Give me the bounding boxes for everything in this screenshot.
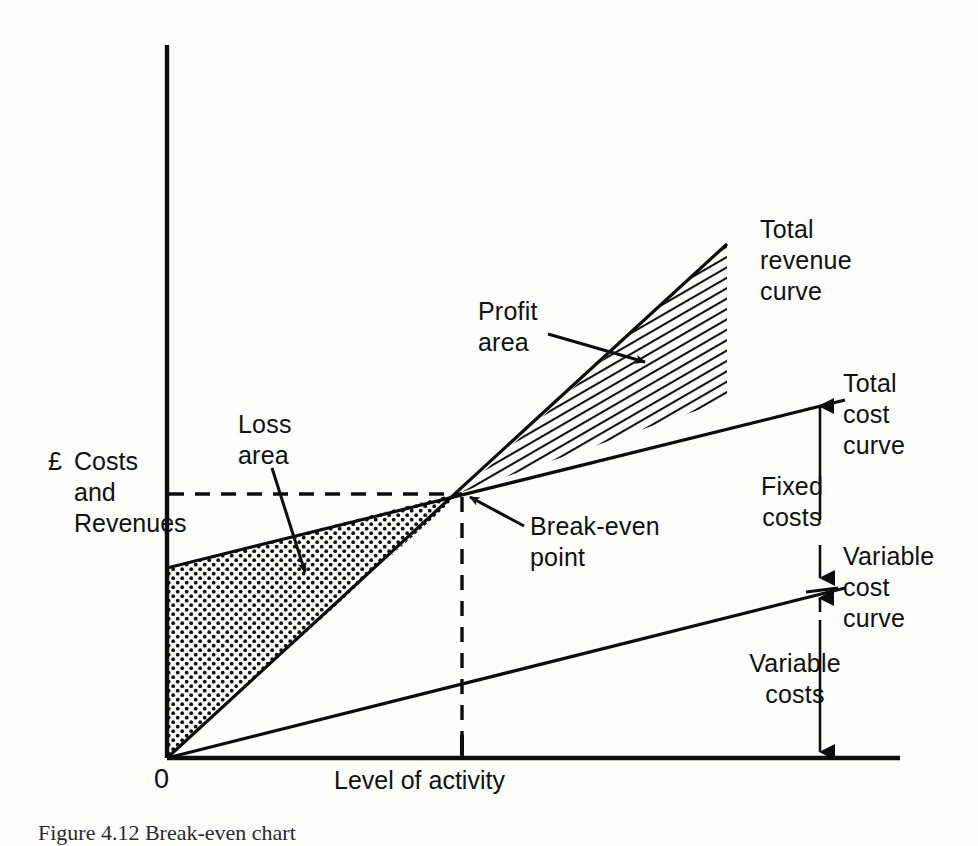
break-even-chart-svg: £ Costs and Revenues 0 Level of activity…	[0, 0, 978, 846]
profit-area-label-line-2: area	[478, 328, 529, 356]
variable-cost-curve-label-line-1: Variable	[843, 542, 934, 570]
y-axis-currency-symbol: £	[48, 447, 62, 475]
total-revenue-curve-label-line-2: revenue	[760, 246, 852, 274]
total-revenue-curve-line	[167, 244, 727, 758]
break-even-point-label-line-1: Break-even	[530, 512, 660, 540]
fixed-costs-label-line-2: costs	[762, 503, 821, 531]
figure-caption: Figure 4.12 Break-even chart	[38, 820, 296, 846]
y-axis-label-line-3: Revenues	[74, 509, 187, 537]
total-cost-curve-label-line-2: cost	[843, 400, 890, 428]
break-even-point-label-line-2: point	[530, 543, 585, 571]
y-axis-label-line-1: Costs	[74, 447, 138, 475]
break-even-figure: £ Costs and Revenues 0 Level of activity…	[0, 0, 978, 846]
loss-area-label-line-1: Loss	[238, 410, 292, 438]
fixed-costs-label-line-1: Fixed	[761, 472, 823, 500]
total-cost-curve-label-line-1: Total	[843, 369, 897, 397]
origin-label: 0	[154, 764, 169, 794]
variable-costs-label-line-1: Variable	[749, 649, 840, 677]
x-axis-label: Level of activity	[334, 766, 505, 794]
loss-area-label-line-2: area	[238, 441, 289, 469]
break-even-point-leader-line	[470, 497, 524, 526]
total-revenue-curve-label-line-3: curve	[760, 277, 822, 305]
variable-cost-curve-label-line-3: curve	[843, 604, 905, 632]
profit-area-label-line-1: Profit	[478, 297, 538, 325]
total-revenue-curve-label-line-1: Total	[760, 215, 814, 243]
variable-cost-curve-label-line-2: cost	[843, 573, 890, 601]
total-cost-curve-label-line-3: curve	[843, 431, 905, 459]
y-axis-label-line-2: and	[74, 478, 116, 506]
variable-costs-label-line-2: costs	[765, 680, 824, 708]
